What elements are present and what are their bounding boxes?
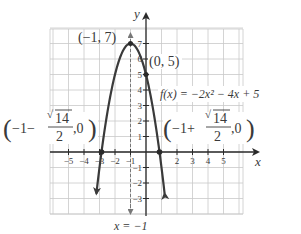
svg-text:−1+: −1+: [172, 121, 195, 136]
svg-text:−1−: −1−: [12, 121, 35, 136]
function-label-text: f(x) = −2x² − 4x + 5: [160, 87, 259, 101]
y-tick-label: 2: [138, 116, 143, 126]
x-tick-label: 2: [175, 156, 180, 166]
svg-text:√: √: [205, 108, 212, 120]
y-tick-label: −1: [132, 163, 142, 173]
x-tick-label: 3: [190, 156, 195, 166]
y-tick-label: 3: [138, 101, 143, 111]
function-label: f(x) = −2x² − 4x + 5: [160, 87, 259, 101]
axis-of-symmetry-label: x = −1: [113, 219, 148, 233]
svg-text:2: 2: [214, 129, 221, 144]
y-tick-label: 7: [138, 39, 143, 49]
svg-text:(: (: [3, 114, 12, 143]
x-tick-label: −4: [79, 156, 89, 166]
x-axis-label: x: [254, 154, 261, 169]
y-intercept-point: [144, 72, 149, 77]
y-tick-label: −2: [132, 178, 142, 188]
svg-text:14: 14: [55, 111, 69, 126]
x-tick-label: 5: [221, 156, 226, 166]
svg-text:): ): [88, 114, 97, 143]
x-tick-label: −5: [64, 156, 74, 166]
y-tick-label: 5: [138, 70, 143, 80]
svg-text:14: 14: [213, 111, 227, 126]
vertex-point: [128, 41, 133, 46]
svg-text:√: √: [47, 108, 54, 120]
vertex-label: (−1, 7): [78, 30, 117, 46]
svg-text:2: 2: [56, 129, 63, 144]
x-tick-label: −2: [110, 156, 120, 166]
y-tick-label: 1: [138, 132, 143, 142]
y-tick-label: −3: [132, 194, 142, 204]
svg-text:): ): [246, 114, 255, 143]
y-intercept-label: (0, 5): [149, 54, 180, 70]
x-intercept-left-label: ( −1− √ 14 2 ,0 ): [2, 108, 98, 144]
svg-text:,0: ,0: [73, 121, 84, 136]
parabola-graph: −5−4−3−2−123457654321−1−2−3 x y (−1, 7) …: [0, 0, 301, 234]
svg-text:(: (: [163, 114, 172, 143]
svg-text:,0: ,0: [231, 121, 242, 136]
x-tick-label: 4: [206, 156, 211, 166]
x-intercept-right-point: [157, 149, 163, 155]
x-intercept-right-label: ( −1+ √ 14 2 ,0 ): [163, 108, 257, 144]
x-intercept-left-point: [99, 149, 105, 155]
y-tick-label: 4: [138, 85, 143, 95]
y-axis-label: y: [132, 6, 140, 21]
